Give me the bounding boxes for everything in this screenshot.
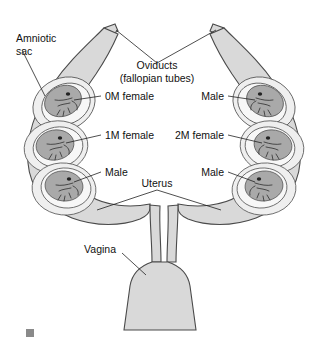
label-right-fetus-bottom: Male — [201, 166, 224, 178]
label-amniotic-sac-line1: Amniotic — [16, 32, 56, 44]
figure-root: Amniotic sac Oviducts (fallopian tubes) … — [0, 0, 314, 344]
label-left-fetus-top: 0M female — [105, 90, 154, 102]
vagina-body — [124, 262, 196, 330]
label-right-fetus-top: Male — [201, 90, 224, 102]
uterus-diagram: Amniotic sac Oviducts (fallopian tubes) … — [0, 0, 314, 344]
footer-marker — [26, 329, 34, 337]
cervical-canals — [150, 205, 178, 262]
label-left-fetus-bottom: Male — [105, 166, 128, 178]
label-left-fetus-middle: 1M female — [105, 129, 154, 141]
label-oviducts-line1: Oviducts — [137, 59, 178, 71]
label-oviducts-line2: (fallopian tubes) — [120, 72, 195, 84]
label-vagina: Vagina — [84, 243, 116, 255]
leader-vagina — [122, 253, 146, 275]
label-amniotic-sac-line2: sac — [16, 45, 32, 57]
label-uterus: Uterus — [142, 177, 173, 189]
label-right-fetus-middle: 2M female — [175, 129, 224, 141]
